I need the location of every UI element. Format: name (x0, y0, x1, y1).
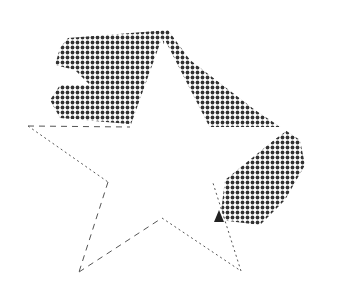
star-shape[interactable] (28, 38, 292, 272)
drawing-canvas (0, 0, 364, 283)
